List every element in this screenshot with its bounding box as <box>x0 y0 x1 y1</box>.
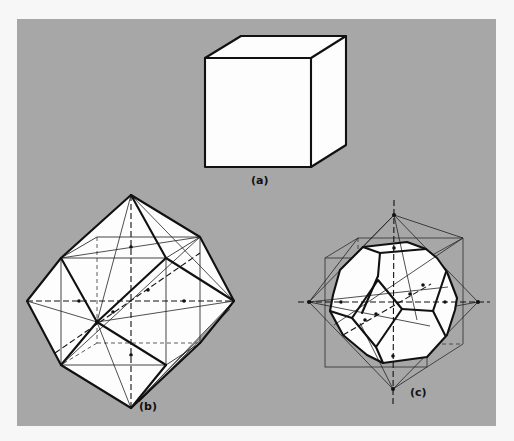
symmetry-axes-b <box>27 195 234 408</box>
axis-point <box>392 246 396 250</box>
axis-point <box>307 300 311 304</box>
label-c: (c) <box>410 386 427 399</box>
label-b: (b) <box>139 400 157 413</box>
thin-line <box>394 215 463 238</box>
axis-point <box>339 300 343 304</box>
axis-point <box>129 245 133 249</box>
crystal-figure: (a) <box>0 0 514 441</box>
axis-point <box>421 283 425 287</box>
axis-point <box>374 312 378 316</box>
axis-point <box>129 353 133 357</box>
label-a: (a) <box>251 174 268 187</box>
axis-point <box>408 292 412 296</box>
axis-point <box>443 300 447 304</box>
subfigure-b-octahedron: (b) <box>27 195 234 413</box>
axis-point <box>77 299 81 303</box>
axis-point <box>146 288 150 292</box>
axis-point <box>182 299 186 303</box>
axis-point <box>111 310 115 314</box>
axis-point <box>391 354 395 358</box>
symmetry-axes-c <box>298 200 490 405</box>
axis-point <box>391 387 395 391</box>
cube-a-fill <box>205 36 346 167</box>
subfigure-a-cube: (a) <box>205 36 346 187</box>
axis-point <box>476 300 480 304</box>
subfigure-c-truncated-octahedron: (c) <box>298 200 490 405</box>
axis-point <box>363 318 367 322</box>
axis-point <box>392 213 396 217</box>
